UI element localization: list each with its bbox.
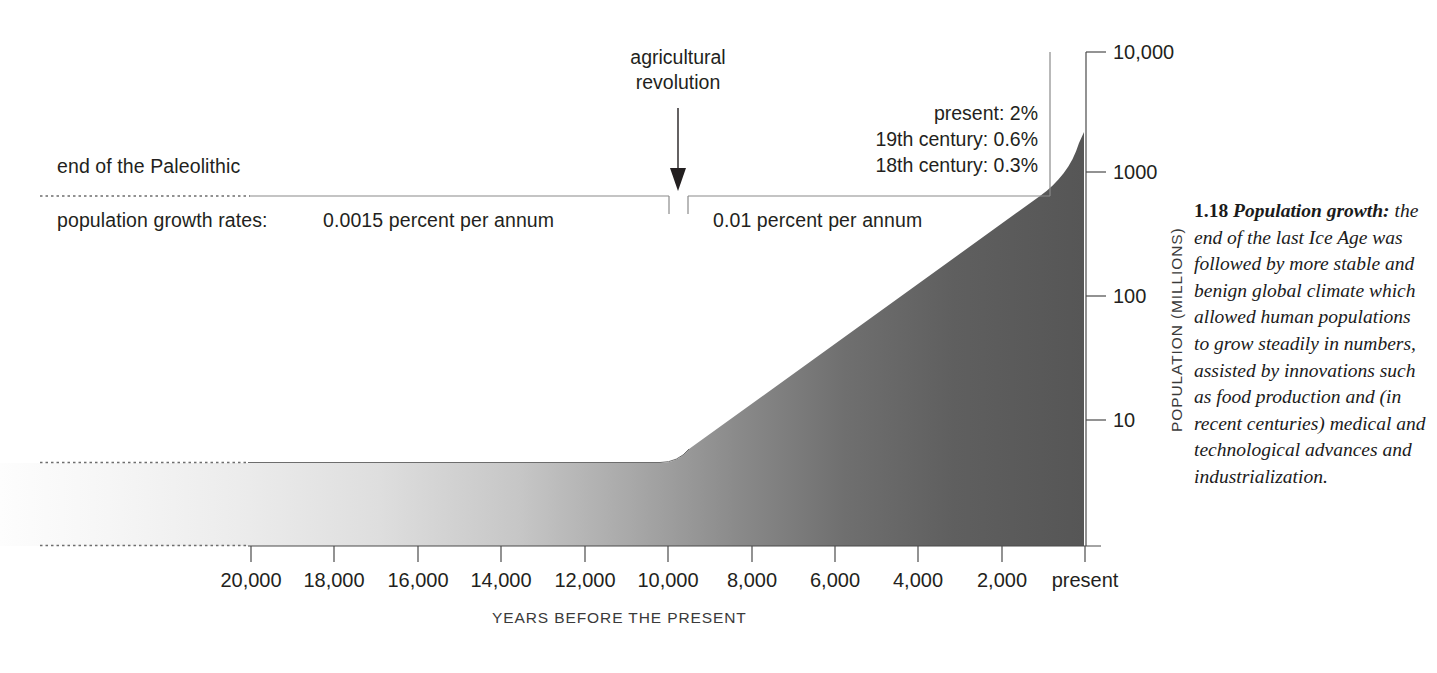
rate-note-18th-century: 18th century: 0.3% <box>770 152 1038 178</box>
y-axis-ticks <box>1086 52 1106 420</box>
population-area-fill <box>0 132 1084 546</box>
agricultural-revolution-line2: revolution <box>578 70 778 95</box>
y-tick-label: 10,000 <box>1113 41 1174 64</box>
population-growth-rates-label: population growth rates: <box>57 209 268 232</box>
x-axis-ticks <box>251 546 1085 562</box>
y-tick-label: 100 <box>1113 285 1146 308</box>
agricultural-revolution-line1: agricultural <box>578 45 778 70</box>
figure-caption: 1.18 Population growth: the end of the l… <box>1194 198 1426 491</box>
y-tick-label: 10 <box>1113 409 1135 432</box>
population-curve-outline <box>248 449 689 463</box>
figure-caption-body: the end of the last Ice Age was followed… <box>1194 200 1426 487</box>
growth-rate-notes: present: 2% 19th century: 0.6% 18th cent… <box>770 100 1038 178</box>
end-of-paleolithic-label: end of the Paleolithic <box>57 155 240 178</box>
agricultural-revolution-label: agricultural revolution <box>578 45 778 95</box>
rate-note-19th-century: 19th century: 0.6% <box>770 126 1038 152</box>
x-tick-label: present <box>1030 569 1140 592</box>
population-growth-figure: agricultural revolution present: 2% 19th… <box>0 0 1437 673</box>
rate-left-paleolithic: 0.0015 percent per annum <box>323 209 554 232</box>
agricultural-revolution-arrow <box>670 108 686 191</box>
figure-title: Population growth: <box>1233 200 1390 221</box>
y-tick-label: 1000 <box>1113 161 1158 184</box>
x-axis-title: YEARS BEFORE THE PRESENT <box>492 609 747 627</box>
rate-note-present: present: 2% <box>770 100 1038 126</box>
figure-number: 1.18 <box>1194 200 1228 221</box>
rate-right-post-agricultural: 0.01 percent per annum <box>713 209 922 232</box>
y-axis-title: POPULATION (MILLIONS) <box>1168 227 1186 432</box>
